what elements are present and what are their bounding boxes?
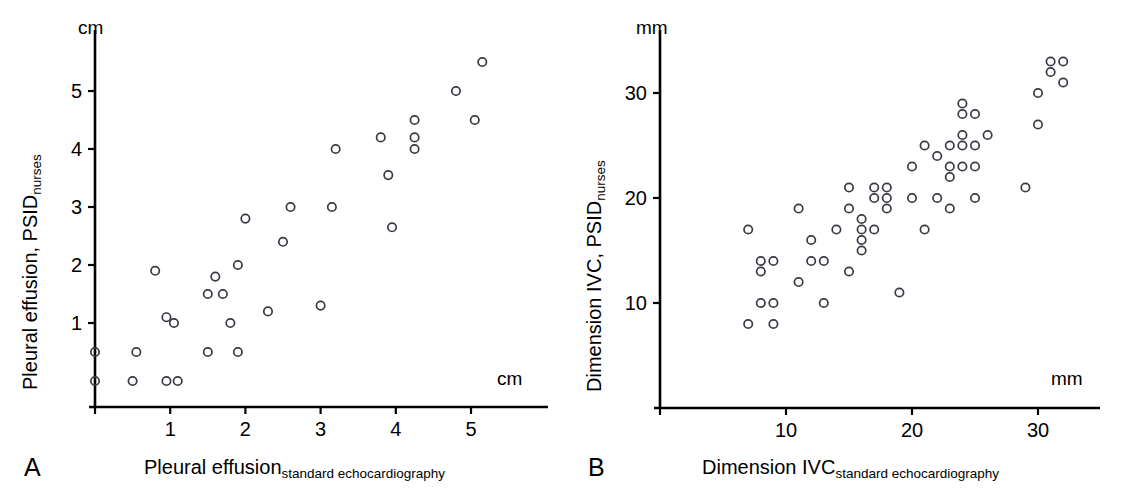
data-point — [452, 87, 460, 95]
panel-a-x-label-sub: standard echocardiography — [282, 466, 446, 481]
x-tick-label: 2 — [240, 419, 251, 439]
data-point — [279, 238, 287, 246]
data-point — [410, 145, 418, 153]
data-point — [286, 203, 294, 211]
x-tick-label: 30 — [1027, 420, 1049, 440]
data-point — [1059, 57, 1067, 65]
panel-b-x-unit: mm — [1051, 369, 1083, 388]
panel-a: cm cm Pleural effusion, PSIDnurses Pleur… — [0, 0, 563, 503]
data-point — [971, 110, 979, 118]
x-tick-label: 20 — [901, 420, 923, 440]
y-tick-label: 20 — [625, 188, 647, 208]
data-point — [857, 215, 865, 223]
panel-b-y-unit: mm — [636, 18, 668, 37]
panel-b: mm mm Dimension IVC, PSIDnurses Dimensio… — [564, 0, 1127, 503]
data-point — [820, 257, 828, 265]
data-point — [883, 204, 891, 212]
y-tick-label: 10 — [625, 293, 647, 313]
panel-b-letter: B — [588, 455, 605, 480]
data-point — [883, 194, 891, 202]
data-point — [204, 348, 212, 356]
data-point — [211, 272, 219, 280]
data-point — [820, 299, 828, 307]
data-point — [757, 299, 765, 307]
data-point — [1034, 120, 1042, 128]
data-point — [920, 141, 928, 149]
data-point — [128, 377, 136, 385]
panel-a-letter: A — [24, 455, 41, 480]
data-point — [870, 183, 878, 191]
panel-b-x-label-sub: standard echocardiography — [835, 466, 999, 481]
data-point — [845, 183, 853, 191]
data-point — [1046, 68, 1054, 76]
data-point — [377, 133, 385, 141]
data-point — [1034, 89, 1042, 97]
data-point — [883, 183, 891, 191]
panel-b-x-label-main: Dimension IVC — [702, 456, 835, 478]
panel-a-y-label-sub: nurses — [29, 154, 44, 195]
data-point — [744, 320, 752, 328]
panel-a-plot — [0, 0, 563, 503]
data-point — [794, 278, 802, 286]
y-tick-label: 4 — [71, 139, 82, 159]
x-tick-label: 5 — [465, 419, 476, 439]
data-point — [151, 267, 159, 275]
data-point — [933, 194, 941, 202]
data-point — [769, 320, 777, 328]
data-point — [870, 225, 878, 233]
data-point — [410, 116, 418, 124]
y-tick-label: 2 — [71, 255, 82, 275]
data-point — [895, 288, 903, 296]
x-tick-label: 3 — [315, 419, 326, 439]
data-point — [807, 236, 815, 244]
data-point — [807, 257, 815, 265]
data-point — [958, 141, 966, 149]
data-point — [857, 225, 865, 233]
data-point — [384, 171, 392, 179]
data-point — [845, 267, 853, 275]
panel-a-y-unit: cm — [78, 18, 103, 37]
data-point — [388, 223, 396, 231]
data-point — [170, 319, 178, 327]
panel-a-x-unit: cm — [497, 369, 522, 388]
data-point — [971, 162, 979, 170]
data-point — [226, 319, 234, 327]
data-point — [331, 145, 339, 153]
data-point — [744, 225, 752, 233]
data-point — [794, 204, 802, 212]
data-point — [958, 99, 966, 107]
data-point — [920, 225, 928, 233]
data-point — [933, 152, 941, 160]
data-point — [946, 162, 954, 170]
panel-a-x-label-main: Pleural effusion — [144, 456, 282, 478]
data-point — [757, 257, 765, 265]
figure-container: cm cm Pleural effusion, PSIDnurses Pleur… — [0, 0, 1127, 503]
data-point — [857, 236, 865, 244]
data-point — [162, 313, 170, 321]
data-point — [316, 301, 324, 309]
panel-a-y-label-main: Pleural effusion, PSID — [19, 195, 41, 390]
data-point — [870, 194, 878, 202]
data-point — [958, 110, 966, 118]
data-point — [946, 141, 954, 149]
data-point — [845, 204, 853, 212]
data-point — [328, 203, 336, 211]
data-point — [946, 204, 954, 212]
data-point — [234, 261, 242, 269]
panel-b-y-label: Dimension IVC, PSIDnurses — [584, 160, 604, 392]
data-point — [971, 141, 979, 149]
data-point — [204, 290, 212, 298]
data-point — [234, 348, 242, 356]
data-point — [958, 131, 966, 139]
data-point — [908, 194, 916, 202]
panel-a-x-label: Pleural effusionstandard echocardiograph… — [144, 457, 445, 477]
y-tick-label: 1 — [71, 313, 82, 333]
data-point — [471, 116, 479, 124]
data-point — [757, 267, 765, 275]
data-point — [1059, 78, 1067, 86]
data-point — [478, 58, 486, 66]
panel-b-y-label-main: Dimension IVC, PSID — [583, 201, 605, 392]
data-point — [1046, 57, 1054, 65]
data-point — [174, 377, 182, 385]
x-tick-label: 10 — [775, 420, 797, 440]
